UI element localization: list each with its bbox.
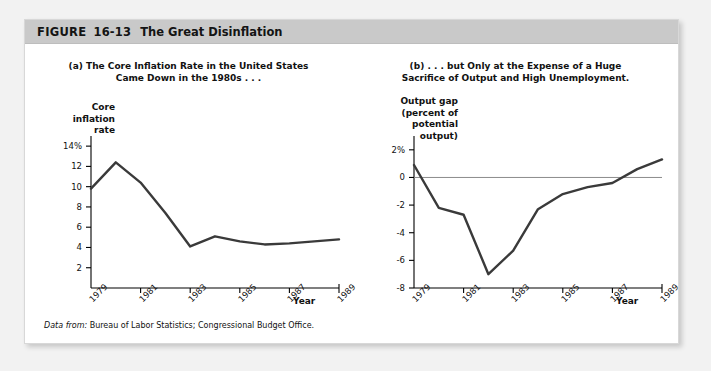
source-note-text: Bureau of Labor Statistics; Congressiona… xyxy=(90,321,314,330)
panel-b-y-axis-title-line1: Output gap xyxy=(362,96,458,108)
panel-a-y-axis-title-line2: inflation xyxy=(53,114,115,126)
y-tick-label: 2% xyxy=(375,145,405,155)
panel-b-title-line2: Sacrifice of Output and High Unemploymen… xyxy=(366,72,665,84)
panel-b-plot: 2%0-2-4-6-8197919811983198519871989 xyxy=(414,136,662,288)
figure-number: 16-13 xyxy=(93,25,131,39)
panel-a-title-line2: Came Down in the 1980s . . . xyxy=(39,72,338,84)
panel-a-y-axis-title-line1: Core xyxy=(53,102,115,114)
data-series-line xyxy=(91,162,339,246)
panel-b-y-axis-title-line2: (percent of xyxy=(362,108,458,120)
panel-b-x-axis-label: Year xyxy=(616,296,638,306)
y-tick-label: 4 xyxy=(52,242,82,252)
y-tick-label: -8 xyxy=(375,283,405,293)
panel-b-title-line1: (b) . . . but Only at the Expense of a H… xyxy=(410,61,622,71)
figure-card: FIGURE 16-13 The Great Disinflation (a) … xyxy=(24,19,679,344)
figure-word: FIGURE xyxy=(37,25,86,39)
y-tick-label: 10 xyxy=(52,182,82,192)
panel-a-plot: 14%12108642197919811983198519871989 xyxy=(91,136,339,288)
chart-svg-a xyxy=(91,136,339,288)
chart-svg-b xyxy=(414,136,662,288)
panels-container: (a) The Core Inflation Rate in the Unite… xyxy=(25,44,678,320)
source-note-lead: Data from: xyxy=(44,321,87,330)
panel-a-title: (a) The Core Inflation Rate in the Unite… xyxy=(25,60,352,84)
y-tick-label: 14% xyxy=(52,141,82,151)
y-tick-label: 8 xyxy=(52,202,82,212)
panel-a-title-line1: (a) The Core Inflation Rate in the Unite… xyxy=(69,61,309,71)
panel-b-y-axis-title-line3: potential xyxy=(362,119,458,131)
y-tick-label: 6 xyxy=(52,222,82,232)
y-tick-label: 2 xyxy=(52,263,82,273)
y-tick-label: -2 xyxy=(375,200,405,210)
source-note: Data from: Bureau of Labor Statistics; C… xyxy=(44,321,314,330)
figure-header: FIGURE 16-13 The Great Disinflation xyxy=(25,20,678,44)
panel-a-y-axis-title: Core inflation rate xyxy=(53,102,115,137)
panel-a-x-axis-label: Year xyxy=(293,296,315,306)
y-tick-label: -6 xyxy=(375,255,405,265)
panel-b-title: (b) . . . but Only at the Expense of a H… xyxy=(352,60,679,84)
y-tick-label: 12 xyxy=(52,161,82,171)
figure-title: The Great Disinflation xyxy=(140,25,282,39)
panel-a-y-axis-title-line3: rate xyxy=(53,125,115,137)
y-tick-label: -4 xyxy=(375,228,405,238)
data-series-line xyxy=(414,159,662,274)
y-tick-label: 0 xyxy=(375,172,405,182)
panel-a: (a) The Core Inflation Rate in the Unite… xyxy=(25,44,352,320)
panel-b: (b) . . . but Only at the Expense of a H… xyxy=(352,44,679,320)
